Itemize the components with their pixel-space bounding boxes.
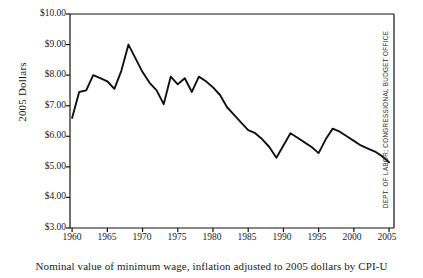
tick-marks [66,14,389,232]
plot-canvas [0,0,423,278]
chart-figure: 2005 Dollars $10.00 $9.00 $8.00 $7.00 $6… [0,0,423,278]
source-credit: DEPT. OF LABOR; CONGRESSIONAL BUDGET OFF… [382,20,389,220]
axis-frame [70,14,394,228]
chart-caption: Nominal value of minimum wage, inflation… [0,260,423,272]
data-line-minimum-wage [72,45,389,163]
